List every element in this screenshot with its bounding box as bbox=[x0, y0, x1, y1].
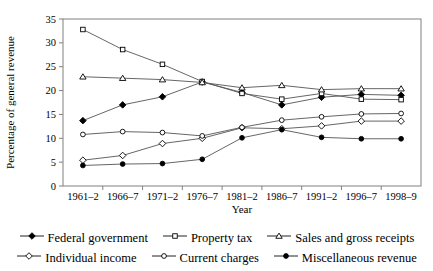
data-point bbox=[81, 132, 86, 137]
data-point bbox=[81, 27, 86, 32]
data-point bbox=[280, 97, 285, 102]
data-point bbox=[240, 91, 245, 96]
legend-row: Individual incomeCurrent chargesMiscella… bbox=[0, 248, 433, 268]
data-point bbox=[160, 130, 165, 135]
legend-row: Federal governmentProperty taxSales and … bbox=[0, 228, 433, 248]
legend-marker-filled-circle-icon bbox=[273, 249, 299, 267]
data-point bbox=[159, 140, 166, 147]
data-point bbox=[319, 135, 324, 140]
legend-item-property-tax: Property tax bbox=[162, 229, 252, 247]
legend-item-sales-and-gross-receipts: Sales and gross receipts bbox=[266, 229, 414, 247]
data-point bbox=[240, 135, 245, 140]
series-sales-and-gross-receipts bbox=[80, 74, 405, 92]
data-point bbox=[318, 123, 325, 130]
y-axis-title: Percentage of general revenue bbox=[4, 36, 16, 169]
data-point bbox=[399, 111, 404, 116]
data-point bbox=[80, 117, 87, 124]
data-point bbox=[359, 112, 364, 117]
legend-marker-open-square-icon bbox=[162, 229, 188, 247]
series-current-charges bbox=[81, 111, 404, 138]
data-point bbox=[279, 118, 284, 123]
x-tick-label: 1981–2 bbox=[226, 191, 258, 202]
data-point bbox=[119, 152, 126, 159]
y-tick-label: 10 bbox=[46, 133, 57, 144]
data-point bbox=[399, 97, 404, 102]
figure-container: 051015202530351961–21966–71971–21976–719… bbox=[0, 0, 433, 271]
chart-legend: Federal governmentProperty taxSales and … bbox=[0, 228, 433, 268]
y-tick-label: 35 bbox=[46, 14, 57, 25]
legend-label: Miscellaneous revenue bbox=[302, 252, 417, 265]
data-point bbox=[319, 114, 324, 119]
data-point bbox=[359, 97, 364, 102]
x-axis-title: Year bbox=[232, 203, 253, 215]
data-point bbox=[278, 102, 285, 109]
data-point bbox=[120, 47, 125, 52]
legend-label: Federal government bbox=[48, 232, 148, 245]
legend-item-miscellaneous-revenue: Miscellaneous revenue bbox=[273, 249, 417, 267]
legend-item-federal-government: Federal government bbox=[19, 229, 148, 247]
legend-marker-filled-diamond-icon bbox=[19, 229, 45, 247]
data-point bbox=[160, 161, 165, 166]
data-point bbox=[80, 157, 87, 164]
data-point bbox=[240, 125, 245, 130]
legend-label: Property tax bbox=[191, 232, 252, 245]
x-tick-label: 1986–7 bbox=[266, 191, 298, 202]
data-point bbox=[120, 162, 125, 167]
data-point bbox=[279, 127, 284, 132]
data-point bbox=[358, 118, 365, 125]
data-point bbox=[279, 82, 285, 87]
data-point bbox=[119, 102, 126, 109]
legend-marker-open-circle-icon bbox=[151, 249, 177, 267]
x-tick-label: 1961–2 bbox=[67, 191, 99, 202]
x-tick-label: 1998–9 bbox=[385, 191, 417, 202]
data-point bbox=[160, 62, 165, 67]
data-point bbox=[200, 157, 205, 162]
y-tick-label: 30 bbox=[46, 37, 57, 48]
x-tick-label: 1991–2 bbox=[306, 191, 338, 202]
legend-label: Individual income bbox=[45, 252, 136, 265]
legend-label: Sales and gross receipts bbox=[295, 232, 414, 245]
data-point bbox=[81, 163, 86, 168]
y-tick-label: 5 bbox=[51, 157, 56, 168]
y-tick-label: 20 bbox=[46, 85, 57, 96]
plot-frame bbox=[63, 19, 421, 186]
y-tick-label: 0 bbox=[51, 181, 56, 192]
y-tick-label: 15 bbox=[46, 109, 57, 120]
x-tick-label: 1966–7 bbox=[107, 191, 139, 202]
data-point bbox=[120, 129, 125, 134]
data-point bbox=[159, 93, 166, 100]
legend-item-individual-income: Individual income bbox=[16, 249, 136, 267]
data-point bbox=[200, 134, 205, 139]
data-point bbox=[398, 118, 405, 125]
data-point bbox=[359, 136, 364, 141]
legend-marker-open-diamond-icon bbox=[16, 249, 42, 267]
x-tick-label: 1996–7 bbox=[346, 191, 378, 202]
x-tick-label: 1971–2 bbox=[147, 191, 179, 202]
y-tick-label: 25 bbox=[46, 61, 57, 72]
data-point bbox=[399, 136, 404, 141]
x-tick-label: 1976–7 bbox=[186, 191, 218, 202]
legend-label: Current charges bbox=[180, 252, 259, 265]
legend-item-current-charges: Current charges bbox=[151, 249, 259, 267]
series-miscellaneous-revenue bbox=[81, 127, 404, 168]
legend-marker-open-triangle-icon bbox=[266, 229, 292, 247]
